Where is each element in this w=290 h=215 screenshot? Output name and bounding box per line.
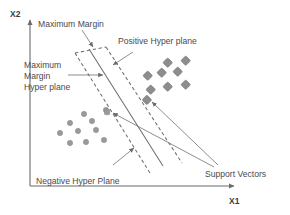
- data-point-diamond: [173, 67, 183, 77]
- data-point-circle: [93, 127, 98, 132]
- data-point-diamond: [146, 85, 156, 95]
- positive-hyperplane-label: Positive Hyper plane: [118, 36, 197, 46]
- y-axis-label: X2: [10, 9, 21, 19]
- support-vector-leader-negative: [113, 113, 214, 167]
- negative-hyperplane-label: Negative Hyper Plane: [36, 176, 120, 186]
- x-axis-label: X1: [229, 196, 240, 206]
- maximum-margin-hyperplane-label-line1: Maximum: [24, 60, 61, 70]
- data-point-diamond: [143, 71, 153, 81]
- data-point-circle: [83, 139, 88, 144]
- support-vector-point-negative: [104, 109, 109, 114]
- data-point-circle: [75, 128, 80, 133]
- maximum-margin-hyperplane-label-line2: Margin: [24, 71, 50, 81]
- data-point-diamond: [157, 68, 167, 78]
- negative-hyperplane-leader: [113, 148, 134, 165]
- positive-class-points: [142, 56, 191, 105]
- negative-class-points: [57, 107, 110, 145]
- maximum-margin-hyperplane-label-line3: Hyper plane: [24, 82, 71, 92]
- positive-hyperplane-leader: [113, 52, 133, 65]
- data-point-diamond: [163, 58, 173, 68]
- data-point-circle: [89, 118, 94, 123]
- support-vector-leader-positive: [152, 102, 218, 165]
- data-point-diamond: [163, 82, 173, 92]
- data-point-circle: [81, 111, 86, 116]
- data-point-circle: [67, 140, 72, 145]
- data-point-circle: [101, 137, 106, 142]
- data-point-circle: [67, 120, 72, 125]
- data-point-diamond: [181, 56, 191, 66]
- maximum-margin-leader: [82, 30, 93, 47]
- support-vectors-label: Support Vectors: [205, 169, 266, 179]
- maximum-margin-label: Maximum Margin: [38, 19, 104, 29]
- svm-diagram-canvas: X1 X2: [0, 0, 290, 215]
- data-point-diamond: [181, 80, 191, 90]
- data-point-circle: [57, 130, 62, 135]
- svm-margin-figure: X1 X2: [0, 0, 290, 215]
- maximum-margin-hyperplane-line: [89, 49, 163, 166]
